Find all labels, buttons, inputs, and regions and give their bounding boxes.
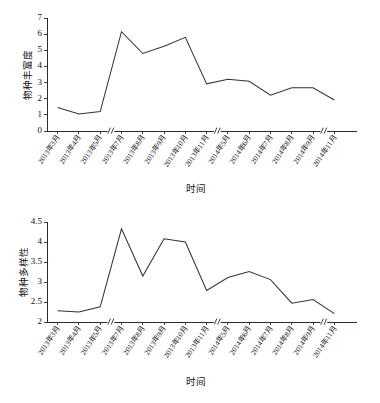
y-tick-label: 5 [38,44,43,54]
axis-break-mark [107,128,114,135]
species-diversity-plot: 22.533.544.52013年3月2013年4月2013年5月2013年7月… [0,200,380,403]
chart-species-richness: 012345672013年3月2013年4月2013年5月2013年7月2013… [0,0,380,200]
y-axis-title: 物种多样性 [18,247,29,297]
chart-species-diversity: 22.533.544.52013年3月2013年4月2013年5月2013年7月… [0,200,380,403]
axis-break-mark [107,319,114,326]
y-tick-label: 2 [38,93,43,103]
axis-break-mark [214,319,221,326]
data-series-line [58,32,335,114]
y-tick-label: 6 [38,28,43,38]
y-tick-label: 2 [38,316,43,326]
y-tick-label: 4.5 [31,216,43,226]
y-axis-title: 物种丰富度 [22,50,33,100]
y-tick-label: 7 [38,12,43,22]
axis-break-mark [320,319,327,326]
x-axis-title: 时间 [186,183,206,194]
species-richness-plot: 012345672013年3月2013年4月2013年5月2013年7月2013… [0,0,380,200]
y-tick-label: 0 [38,125,43,135]
y-tick-label: 3 [38,276,43,286]
x-axis-title: 时间 [186,376,206,387]
axis-break-mark [320,128,327,135]
data-series-line [58,229,335,314]
y-tick-label: 3 [38,77,43,87]
y-tick-label: 1 [38,109,43,119]
y-tick-label: 4 [38,236,43,246]
y-tick-label: 2.5 [31,296,43,306]
y-tick-label: 3.5 [31,256,43,266]
y-tick-label: 4 [38,60,43,70]
axis-break-mark [214,128,221,135]
